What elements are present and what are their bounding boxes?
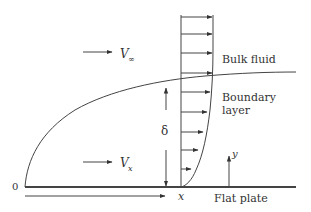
freestream-velocity-subscript: ∞ bbox=[128, 55, 135, 64]
boundary-layer-diagram: δ V ∞ V x Bulk fluid Boundary layer y x … bbox=[0, 0, 311, 212]
velocity-profile-envelope bbox=[181, 15, 213, 187]
origin-label: 0 bbox=[12, 181, 18, 192]
flat-plate-label: Flat plate bbox=[214, 192, 268, 205]
boundary-layer-label-line2: layer bbox=[222, 104, 251, 117]
velocity-profile-arrows bbox=[181, 17, 212, 169]
thickness-label: δ bbox=[161, 124, 168, 138]
boundary-layer-label-line1: Boundary bbox=[222, 91, 277, 104]
x-axis-label: x bbox=[178, 190, 185, 203]
bulk-fluid-label: Bulk fluid bbox=[222, 53, 276, 66]
y-axis-label: y bbox=[231, 148, 238, 159]
local-velocity-subscript: x bbox=[128, 164, 133, 173]
